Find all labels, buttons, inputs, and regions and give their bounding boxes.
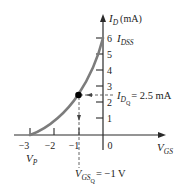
y-tick-label-3: 3 [107, 81, 112, 92]
x-axis-label: VGS [157, 141, 173, 156]
y-tick-label-5: 5 [107, 49, 112, 60]
x-tick-label-neg2: −2 [45, 140, 56, 151]
x-axis-arrow-icon [158, 132, 166, 138]
transfer-curve [30, 38, 103, 135]
y-tick-label-2: 2 [107, 97, 112, 108]
y-tick-label-4: 4 [107, 65, 112, 76]
x-tick-label-neg1: −1 [69, 140, 80, 151]
y-axis-arrow-icon [100, 14, 106, 22]
jfet-transfer-curve-diagram: ID(mA) 6 5 4 3 2 1 IDSS IDQ= 2.5 mA −3 −… [0, 0, 180, 188]
vgsq-arrow-icon [77, 115, 81, 121]
x-tick-label-neg3: −3 [19, 140, 30, 151]
x-tick-label-0: 0 [108, 140, 113, 151]
q-point [75, 92, 82, 99]
idss-label: IDSS [116, 32, 134, 47]
y-axis-label: ID(mA) [108, 12, 142, 27]
vgsq-label: VGSQ= −1 V [75, 168, 126, 184]
y-tick-label-6: 6 [107, 33, 112, 44]
y-tick-label-1: 1 [107, 113, 112, 124]
idq-arrow-icon [86, 93, 92, 97]
vp-label: VP [26, 152, 38, 167]
idq-label: IDQ= 2.5 mA [116, 90, 172, 106]
